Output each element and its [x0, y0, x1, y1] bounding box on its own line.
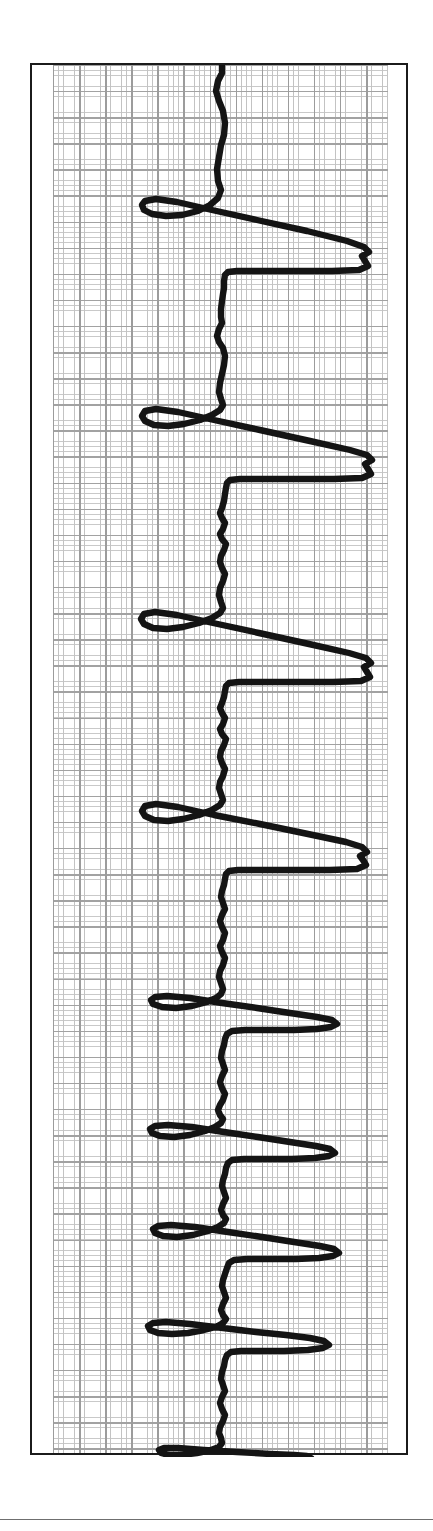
ecg-chart-frame — [30, 63, 408, 1455]
ecg-trace-path — [141, 65, 372, 1457]
ecg-waveform-trace — [32, 65, 410, 1457]
ecg-page — [0, 0, 433, 1531]
bottom-divider-rule — [0, 1519, 433, 1520]
